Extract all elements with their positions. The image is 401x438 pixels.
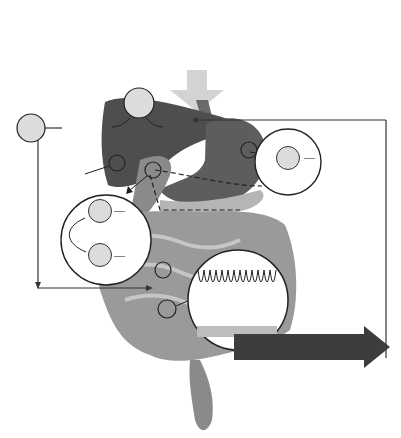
- rectum: [189, 360, 212, 430]
- pancreas-b12-hc-circle: [88, 199, 112, 223]
- digestive-system-illustration: [0, 0, 401, 438]
- stomach-hc-label: —: [304, 151, 315, 163]
- stomach-b12-circle: [276, 146, 300, 170]
- pancreas-hc-label: —: [114, 204, 125, 216]
- pancreas-if-label: —: [114, 249, 125, 261]
- intake-arrow-shaft: [187, 70, 207, 92]
- pancreas-b12-if-circle: [88, 243, 112, 267]
